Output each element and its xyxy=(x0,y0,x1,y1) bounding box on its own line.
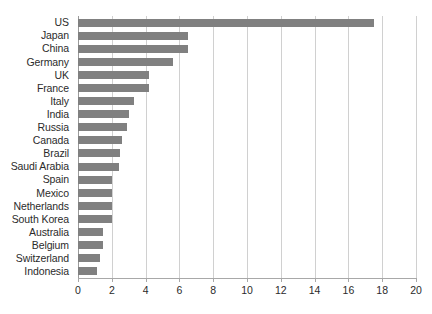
axis-tick-label: 14 xyxy=(309,284,321,296)
category-label: Canada xyxy=(0,134,74,147)
category-label: Mexico xyxy=(0,186,74,199)
category-label: Belgium xyxy=(0,239,74,252)
bar xyxy=(78,202,112,210)
bar-series xyxy=(78,16,416,278)
bar xyxy=(78,19,374,27)
bar-row xyxy=(78,68,416,81)
axis-tick-mark xyxy=(348,278,349,282)
axis-tick-label: 2 xyxy=(109,284,115,296)
bar xyxy=(78,136,122,144)
bar xyxy=(78,149,120,157)
axis-tick-mark xyxy=(315,278,316,282)
category-label: South Korea xyxy=(0,212,74,225)
bar xyxy=(78,58,173,66)
bar-row xyxy=(78,147,416,160)
bar xyxy=(78,267,97,275)
bar xyxy=(78,97,134,105)
bar xyxy=(78,241,103,249)
category-label: China xyxy=(0,42,74,55)
bar-row xyxy=(78,265,416,278)
bar-row xyxy=(78,81,416,94)
bar-row xyxy=(78,186,416,199)
bar-row xyxy=(78,160,416,173)
category-label: France xyxy=(0,81,74,94)
bar-row xyxy=(78,121,416,134)
axis-tick-label: 10 xyxy=(241,284,253,296)
bar-row xyxy=(78,42,416,55)
bar-row xyxy=(78,108,416,121)
bar xyxy=(78,84,149,92)
bar xyxy=(78,123,127,131)
category-axis: USJapanChinaGermanyUKFranceItalyIndiaRus… xyxy=(0,16,74,278)
bar xyxy=(78,189,112,197)
bar xyxy=(78,163,119,171)
category-label: Saudi Arabia xyxy=(0,160,74,173)
bar-chart: USJapanChinaGermanyUKFranceItalyIndiaRus… xyxy=(0,0,432,314)
category-label: Indonesia xyxy=(0,265,74,278)
axis-tick-label: 16 xyxy=(343,284,355,296)
bar-row xyxy=(78,95,416,108)
axis-tick-mark xyxy=(281,278,282,282)
axis-tick-mark xyxy=(247,278,248,282)
axis-tick-label: 4 xyxy=(143,284,149,296)
bar-row xyxy=(78,29,416,42)
axis-tick-label: 6 xyxy=(176,284,182,296)
plot-area xyxy=(78,16,416,278)
bar xyxy=(78,254,100,262)
axis-tick-label: 8 xyxy=(210,284,216,296)
bar-row xyxy=(78,134,416,147)
bar-row xyxy=(78,55,416,68)
bar-row xyxy=(78,199,416,212)
axis-tick-label: 0 xyxy=(75,284,81,296)
bar xyxy=(78,176,112,184)
bar xyxy=(78,45,188,53)
category-label: Netherlands xyxy=(0,199,74,212)
axis-tick-mark xyxy=(213,278,214,282)
category-label: Germany xyxy=(0,55,74,68)
bar-row xyxy=(78,252,416,265)
axis-tick-mark xyxy=(382,278,383,282)
bar xyxy=(78,71,149,79)
category-label: Switzerland xyxy=(0,252,74,265)
bar-row xyxy=(78,173,416,186)
gridline xyxy=(416,16,417,278)
category-label: Spain xyxy=(0,173,74,186)
bar-row xyxy=(78,239,416,252)
bar-row xyxy=(78,16,416,29)
value-axis: 02468101214161820 xyxy=(78,278,416,308)
category-label: Australia xyxy=(0,226,74,239)
axis-tick-label: 12 xyxy=(275,284,287,296)
category-label: Brazil xyxy=(0,147,74,160)
bar-row xyxy=(78,226,416,239)
category-label: Russia xyxy=(0,121,74,134)
category-label: Italy xyxy=(0,95,74,108)
bar xyxy=(78,110,129,118)
bar-row xyxy=(78,212,416,225)
axis-tick-mark xyxy=(416,278,417,282)
axis-tick-label: 18 xyxy=(376,284,388,296)
axis-tick-mark xyxy=(146,278,147,282)
axis-tick-mark xyxy=(112,278,113,282)
category-label: Japan xyxy=(0,29,74,42)
axis-tick-mark xyxy=(78,278,79,282)
bar xyxy=(78,32,188,40)
axis-tick-mark xyxy=(179,278,180,282)
category-label: US xyxy=(0,16,74,29)
category-label: UK xyxy=(0,68,74,81)
bar xyxy=(78,215,112,223)
axis-tick-label: 20 xyxy=(410,284,422,296)
category-label: India xyxy=(0,108,74,121)
bar xyxy=(78,228,103,236)
